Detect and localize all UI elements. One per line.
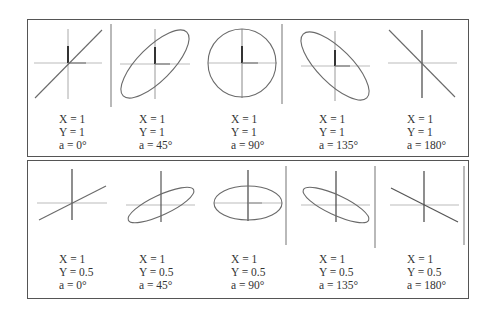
figure-label: X = 1 Y = 1 a = 0° [59,113,87,152]
x-amplitude-label: X = 1 [231,113,264,126]
phase-label: a = 180° [407,139,446,152]
phase-label: a = 90° [231,279,266,292]
figure-bottom-a180 [390,171,459,222]
phase-label: a = 135° [319,139,358,152]
figure-label: X = 1 Y = 1 a = 135° [319,113,358,152]
figure-bottom-a90 [214,170,282,221]
phase-label: a = 0° [59,279,94,292]
x-amplitude-label: X = 1 [407,113,446,126]
y-amplitude-label: Y = 0.5 [59,266,94,279]
figure-top-a135 [291,22,379,110]
figure-label: X = 1 Y = 1 a = 180° [407,113,446,152]
y-amplitude-label: Y = 0.5 [407,266,446,279]
figure-label: X = 1 Y = 0.5 a = 180° [407,253,446,292]
phase-label: a = 180° [407,279,446,292]
phase-label: a = 45° [139,139,172,152]
figure-top-a180 [388,30,457,98]
x-amplitude-label: X = 1 [319,253,358,266]
phase-label: a = 135° [319,279,358,292]
y-amplitude-label: Y = 0.5 [231,266,266,279]
figure-top-a45 [111,20,199,108]
figure-label: X = 1 Y = 0.5 a = 90° [231,253,266,292]
y-amplitude-label: Y = 1 [407,126,446,139]
x-amplitude-label: X = 1 [59,113,87,126]
figure-label: X = 1 Y = 0.5 a = 45° [139,253,174,292]
phase-label: a = 45° [139,279,174,292]
figure-top-a0 [34,29,102,99]
figure-label: X = 1 Y = 0.5 a = 0° [59,253,94,292]
x-amplitude-label: X = 1 [319,113,358,126]
y-amplitude-label: Y = 0.5 [139,266,174,279]
y-amplitude-label: Y = 1 [319,126,358,139]
y-amplitude-label: Y = 1 [59,126,87,139]
x-amplitude-label: X = 1 [139,253,174,266]
figure-label: X = 1 Y = 1 a = 45° [139,113,172,152]
figure-bottom-a135 [299,171,373,229]
figure-top-a90 [208,29,277,98]
figure-bottom-a0 [37,169,107,220]
figure-label: X = 1 Y = 1 a = 90° [231,113,264,152]
x-amplitude-label: X = 1 [407,253,446,266]
phase-label: a = 0° [59,139,87,152]
x-amplitude-label: X = 1 [139,113,172,126]
x-amplitude-label: X = 1 [59,253,94,266]
x-amplitude-label: X = 1 [231,253,266,266]
y-amplitude-label: Y = 0.5 [319,266,358,279]
y-amplitude-label: Y = 1 [139,126,172,139]
y-amplitude-label: Y = 1 [231,126,264,139]
figure-bottom-a45 [124,171,198,229]
phase-label: a = 90° [231,139,264,152]
figure-label: X = 1 Y = 0.5 a = 135° [319,253,358,292]
